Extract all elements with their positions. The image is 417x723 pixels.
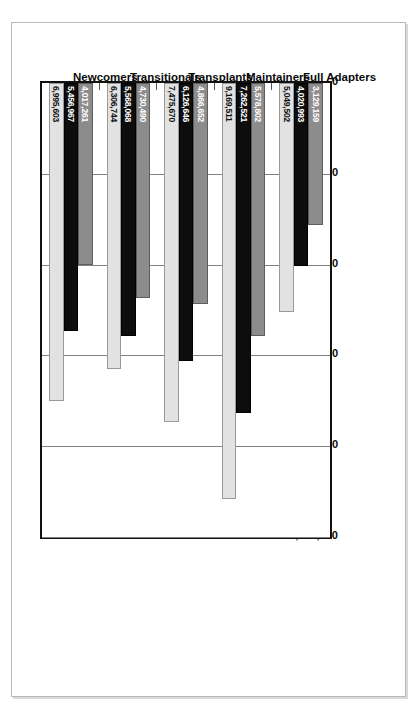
bar-value-label: 4,020,993 bbox=[297, 86, 306, 122]
bar: 4,866,652 bbox=[193, 83, 208, 304]
bar: 3,129,159 bbox=[308, 83, 323, 225]
bar: 4,730,490 bbox=[136, 83, 151, 298]
bar-value-label: 6,306,744 bbox=[110, 86, 119, 122]
bar: 4,017,261 bbox=[78, 83, 93, 265]
gridline bbox=[42, 537, 330, 538]
bar-value-label: 7,262,521 bbox=[239, 86, 248, 122]
bar-value-label: 6,995,603 bbox=[52, 86, 61, 122]
bar-value-label: 6,126,646 bbox=[182, 86, 191, 122]
bar: 7,262,521 bbox=[236, 83, 251, 413]
rotated-chart-container: 02,000,0004,000,0006,000,0008,000,00010,… bbox=[44, 81, 374, 641]
bar-groups: 3,129,1594,020,9935,049,5025,578,8027,26… bbox=[42, 83, 330, 537]
bar-value-label: 5,049,502 bbox=[282, 86, 291, 122]
bar: 9,169,511 bbox=[222, 83, 237, 499]
bar: 5,456,967 bbox=[64, 83, 79, 331]
bar-value-label: 5,578,802 bbox=[254, 86, 263, 122]
bar-value-label: 4,866,652 bbox=[196, 86, 205, 122]
bar-value-label: 5,568,068 bbox=[124, 86, 133, 122]
bar-value-label: 9,169,511 bbox=[225, 86, 234, 122]
chart-page: 02,000,0004,000,0006,000,0008,000,00010,… bbox=[0, 0, 417, 723]
bar: 5,049,502 bbox=[279, 83, 294, 312]
plot-area: 3,129,1594,020,9935,049,5025,578,8027,26… bbox=[40, 81, 332, 539]
bar-value-label: 3,129,159 bbox=[311, 86, 320, 122]
bar: 6,306,744 bbox=[107, 83, 122, 369]
bar: 5,578,802 bbox=[251, 83, 266, 336]
bar: 4,020,993 bbox=[294, 83, 309, 266]
bar-value-label: 7,475,670 bbox=[167, 86, 176, 122]
bar-value-label: 4,017,261 bbox=[81, 86, 90, 122]
bar: 6,995,603 bbox=[49, 83, 64, 401]
bar: 7,475,670 bbox=[164, 83, 179, 422]
bar: 6,126,646 bbox=[179, 83, 194, 361]
bar: 5,568,068 bbox=[121, 83, 136, 336]
bar-value-label: 5,456,967 bbox=[67, 86, 76, 122]
bar-value-label: 4,730,490 bbox=[139, 86, 148, 122]
